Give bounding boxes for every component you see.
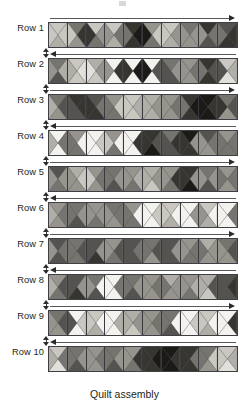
quilt-block	[105, 239, 124, 263]
quilt-block	[181, 203, 200, 227]
quilt-block	[143, 59, 162, 83]
quilt-block	[124, 239, 143, 263]
quilt-block	[87, 95, 106, 119]
quilt-block	[162, 239, 181, 263]
quilt-block	[218, 23, 237, 47]
row-label: Row 4	[0, 131, 44, 141]
row-direction-arrow-left	[48, 266, 238, 274]
quilt-block	[105, 203, 124, 227]
quilt-block	[124, 167, 143, 191]
quilt-block	[162, 275, 181, 299]
row-label: Row 9	[0, 311, 44, 321]
quilt-block	[143, 167, 162, 191]
quilt-block	[124, 311, 143, 335]
quilt-row-strip	[48, 238, 238, 264]
quilt-block	[68, 131, 87, 155]
quilt-block	[124, 275, 143, 299]
quilt-block	[49, 59, 68, 83]
quilt-block	[105, 275, 124, 299]
quilt-block	[218, 311, 237, 335]
quilt-block	[124, 95, 143, 119]
quilt-block	[68, 203, 87, 227]
quilt-block	[49, 203, 68, 227]
quilt-block	[162, 203, 181, 227]
quilt-block	[68, 275, 87, 299]
quilt-block	[49, 167, 68, 191]
quilt-row-strip	[48, 346, 238, 372]
row-direction-arrow-left	[48, 50, 238, 58]
quilt-block	[49, 23, 68, 47]
row-direction-arrow-right	[48, 14, 238, 22]
quilt-block	[68, 95, 87, 119]
quilt-block	[49, 275, 68, 299]
quilt-block	[162, 167, 181, 191]
quilt-block	[181, 311, 200, 335]
quilt-assembly-diagram: Row 1Row 2Row 3Row 4Row 5Row 6Row 7Row 8…	[0, 0, 249, 408]
quilt-block	[68, 347, 87, 371]
row-direction-arrow-right	[48, 302, 238, 310]
row-direction-arrow-left	[48, 338, 238, 346]
quilt-row: Row 10	[0, 338, 249, 372]
quilt-block	[143, 347, 162, 371]
quilt-row-strip	[48, 94, 238, 120]
quilt-block	[162, 131, 181, 155]
quilt-block	[199, 239, 218, 263]
quilt-block	[68, 311, 87, 335]
row-direction-arrow-left	[48, 122, 238, 130]
quilt-block	[218, 167, 237, 191]
quilt-block	[87, 203, 106, 227]
quilt-block	[105, 311, 124, 335]
quilt-block	[143, 203, 162, 227]
quilt-block	[218, 131, 237, 155]
figure-caption: Quilt assembly	[0, 388, 249, 400]
top-crop-mark	[119, 1, 126, 6]
quilt-row-strip	[48, 202, 238, 228]
quilt-block	[124, 347, 143, 371]
quilt-block	[218, 347, 237, 371]
quilt-block	[143, 95, 162, 119]
quilt-block	[105, 131, 124, 155]
quilt-row: Row 4	[0, 122, 249, 156]
row-label: Row 1	[0, 23, 44, 33]
quilt-block	[218, 275, 237, 299]
quilt-block	[199, 311, 218, 335]
quilt-block	[87, 239, 106, 263]
quilt-block	[218, 59, 237, 83]
row-label: Row 7	[0, 239, 44, 249]
quilt-block	[218, 95, 237, 119]
quilt-row-strip	[48, 58, 238, 84]
quilt-block	[124, 131, 143, 155]
quilt-row: Row 3	[0, 86, 249, 120]
quilt-block	[49, 131, 68, 155]
row-label: Row 3	[0, 95, 44, 105]
quilt-row: Row 9	[0, 302, 249, 336]
quilt-block	[143, 275, 162, 299]
quilt-block	[87, 275, 106, 299]
quilt-block	[199, 275, 218, 299]
quilt-block	[87, 131, 106, 155]
quilt-block	[143, 131, 162, 155]
quilt-block	[199, 131, 218, 155]
quilt-block	[105, 23, 124, 47]
quilt-block	[124, 23, 143, 47]
quilt-block	[68, 167, 87, 191]
quilt-block	[181, 239, 200, 263]
row-direction-arrow-right	[48, 86, 238, 94]
quilt-row-strip	[48, 274, 238, 300]
row-label: Row 8	[0, 275, 44, 285]
quilt-row: Row 7	[0, 230, 249, 264]
row-direction-arrow-left	[48, 194, 238, 202]
quilt-block	[199, 95, 218, 119]
quilt-block	[105, 95, 124, 119]
quilt-row-strip	[48, 310, 238, 336]
quilt-row: Row 1	[0, 14, 249, 48]
quilt-row-strip	[48, 166, 238, 192]
quilt-block	[181, 23, 200, 47]
quilt-block	[87, 311, 106, 335]
quilt-block	[181, 167, 200, 191]
quilt-block	[162, 59, 181, 83]
quilt-block	[162, 311, 181, 335]
quilt-row: Row 6	[0, 194, 249, 228]
quilt-block	[181, 275, 200, 299]
quilt-row-strip	[48, 130, 238, 156]
